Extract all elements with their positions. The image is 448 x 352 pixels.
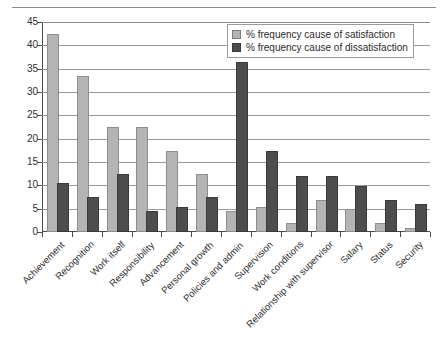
x-axis-category-label: Responsibility — [107, 239, 156, 288]
x-axis-category-label: Policies and admin — [181, 239, 245, 303]
legend-item-dissatisfaction: % frequency cause of dissatisfaction — [232, 41, 408, 54]
x-axis-category-label: Salary — [338, 239, 365, 266]
y-axis-tick-label: 25 — [0, 109, 38, 120]
bar — [87, 197, 99, 232]
x-axis-tick — [161, 232, 162, 237]
x-axis-tick — [370, 232, 371, 237]
x-axis-tick — [191, 232, 192, 237]
bar — [385, 200, 397, 232]
x-axis-category-label: Achievement — [20, 239, 67, 286]
x-axis-tick — [102, 232, 103, 237]
legend-swatch-dissatisfaction-icon — [232, 43, 241, 52]
x-axis-category-label: Work itself — [88, 239, 127, 278]
bar — [146, 211, 158, 232]
x-axis-tick — [42, 232, 43, 237]
x-axis-tick — [430, 232, 431, 237]
x-axis-tick — [311, 232, 312, 237]
legend-item-satisfaction: % frequency cause of satisfaction — [232, 28, 408, 41]
x-axis-category-label: Work conditions — [250, 239, 305, 294]
y-axis-tick-label: 5 — [0, 203, 38, 214]
bar — [117, 174, 129, 232]
x-axis-category-label: Relationship with supervisor — [244, 239, 335, 330]
y-axis-tick-label: 30 — [0, 86, 38, 97]
y-axis-tick — [37, 162, 42, 163]
bar — [326, 176, 338, 232]
x-axis-tick — [132, 232, 133, 237]
y-axis-tick — [37, 22, 42, 23]
y-axis-tick — [37, 92, 42, 93]
bar — [355, 186, 367, 232]
y-axis-tick — [37, 45, 42, 46]
x-axis-category-label: Security — [393, 239, 425, 271]
x-axis-category-label: Recognition — [53, 239, 96, 282]
y-axis-tick-label: 15 — [0, 156, 38, 167]
y-axis-tick — [37, 139, 42, 140]
y-axis-tick-label: 35 — [0, 63, 38, 74]
legend-label-dissatisfaction: % frequency cause of dissatisfaction — [246, 42, 408, 53]
bar — [57, 183, 69, 232]
x-axis-tick — [221, 232, 222, 237]
gridline — [42, 22, 430, 23]
x-axis-category-label: Supervision — [232, 239, 275, 282]
x-axis-tick — [281, 232, 282, 237]
bar — [236, 62, 248, 232]
y-axis-tick-label: 10 — [0, 179, 38, 190]
bar — [176, 207, 188, 232]
chart-screenshot: 051015202530354045 AchievementRecognitio… — [0, 0, 448, 352]
y-axis-tick — [37, 69, 42, 70]
x-axis-category-label: Personal growth — [159, 239, 215, 295]
bar — [266, 151, 278, 232]
y-axis-tick — [37, 185, 42, 186]
legend-label-satisfaction: % frequency cause of satisfaction — [246, 29, 395, 40]
chart-legend: % frequency cause of satisfaction % freq… — [227, 24, 414, 58]
x-axis-tick — [72, 232, 73, 237]
bar — [296, 176, 308, 232]
y-axis-tick — [37, 209, 42, 210]
x-axis-tick — [400, 232, 401, 237]
x-axis-tick — [340, 232, 341, 237]
x-axis-category-label: Status — [368, 239, 395, 266]
legend-swatch-satisfaction-icon — [232, 30, 241, 39]
bar — [415, 204, 427, 232]
y-axis-tick-label: 45 — [0, 16, 38, 27]
x-axis-tick — [251, 232, 252, 237]
y-axis-tick-label: 40 — [0, 39, 38, 50]
x-axis-category-label: Advancement — [137, 239, 186, 288]
top-divider-rule — [12, 7, 436, 8]
bar — [206, 197, 218, 232]
y-axis-tick-label: 0 — [0, 226, 38, 237]
y-axis-tick-label: 20 — [0, 133, 38, 144]
y-axis-tick — [37, 115, 42, 116]
